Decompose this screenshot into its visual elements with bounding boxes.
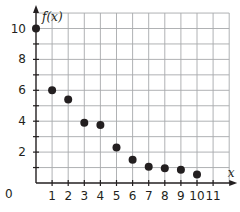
x-tick-label: 3	[80, 189, 88, 203]
x-tick-label: 2	[64, 189, 72, 203]
y-tick-label: 4	[18, 114, 26, 128]
x-tick-label: 4	[97, 189, 105, 203]
data-point	[48, 86, 56, 94]
y-tick-label: 2	[18, 145, 26, 159]
tick-labels: 1234567891011246810	[11, 22, 221, 204]
x-tick-label: 10	[189, 189, 204, 203]
x-axis-arrow-icon	[229, 180, 237, 186]
data-point	[32, 25, 40, 33]
x-tick-label: 1	[48, 189, 56, 203]
x-tick-label: 11	[205, 189, 220, 203]
x-tick-label: 6	[129, 189, 137, 203]
data-point	[96, 121, 104, 129]
x-tick-label: 7	[145, 189, 153, 203]
data-point	[177, 166, 185, 174]
y-tick-label: 8	[18, 52, 26, 66]
x-axis-title: x	[228, 166, 235, 180]
data-point	[129, 156, 137, 164]
data-point	[64, 96, 72, 104]
x-tick-label: 5	[113, 189, 121, 203]
data-point	[161, 164, 169, 172]
data-point	[145, 163, 153, 171]
x-tick-label: 9	[177, 189, 185, 203]
data-point	[193, 171, 201, 179]
scatter-chart: 1234567891011246810 f(x) x 0	[0, 0, 240, 212]
y-axis-arrow-icon	[33, 5, 39, 13]
x-tick-label: 8	[161, 189, 169, 203]
y-tick-label: 6	[18, 83, 26, 97]
data-point	[113, 143, 121, 151]
y-tick-label: 10	[11, 22, 26, 36]
y-axis-title: f(x)	[41, 10, 63, 24]
origin-label: 0	[5, 187, 13, 201]
data-point	[80, 119, 88, 127]
